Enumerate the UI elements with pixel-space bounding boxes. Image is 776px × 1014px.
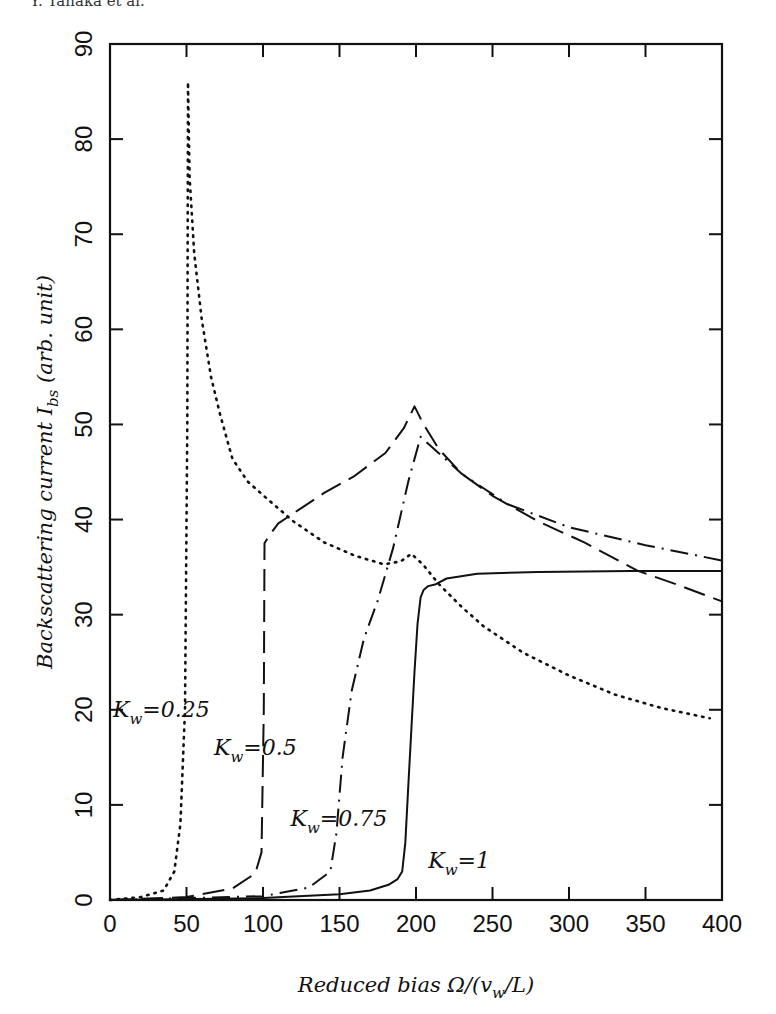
- plot-frame: [110, 44, 722, 900]
- x-tick-label: 350: [625, 910, 665, 937]
- y-tick-label: 0: [70, 893, 97, 906]
- curve-label: Kw=0.75: [290, 806, 388, 837]
- y-axis-title: Backscattering current Ibs (arb. unit): [33, 275, 62, 670]
- curve-k-w-1: [110, 571, 722, 900]
- y-tick-label: 60: [70, 316, 97, 343]
- y-tick-label: 70: [70, 221, 97, 248]
- x-tick-label: 0: [103, 910, 116, 937]
- curve-k-w-0-25: [110, 82, 710, 900]
- y-tick-label: 30: [70, 601, 97, 628]
- curve-label: Kw=0.5: [213, 735, 297, 766]
- y-tick-label: 50: [70, 411, 97, 438]
- plot-curves: [110, 82, 722, 900]
- backscattering-current-chart: 0501001502002503003504000102030405060708…: [0, 0, 776, 1014]
- x-tick-label: 300: [549, 910, 589, 937]
- x-tick-label: 100: [243, 910, 283, 937]
- curve-k-w-0-75: [110, 437, 722, 900]
- curve-label: Kw=1: [427, 848, 490, 879]
- axis-ticks: [110, 44, 722, 900]
- x-axis-title: Reduced bias Ω/(vw/L): [297, 973, 534, 1002]
- x-tick-label: 250: [472, 910, 512, 937]
- x-tick-label: 150: [319, 910, 359, 937]
- curve-label: Kw=0.25: [112, 697, 210, 728]
- axis-tick-labels: 0501001502002503003504000102030405060708…: [70, 31, 742, 937]
- curve-annotations: Kw=0.25Kw=0.5Kw=0.75Kw=1: [112, 697, 490, 878]
- y-tick-label: 80: [70, 126, 97, 153]
- x-tick-label: 200: [396, 910, 436, 937]
- x-tick-label: 400: [702, 910, 742, 937]
- y-tick-label: 40: [70, 506, 97, 533]
- x-tick-label: 50: [173, 910, 200, 937]
- y-tick-label: 10: [70, 792, 97, 819]
- y-tick-label: 20: [70, 696, 97, 723]
- y-tick-label: 90: [70, 31, 97, 58]
